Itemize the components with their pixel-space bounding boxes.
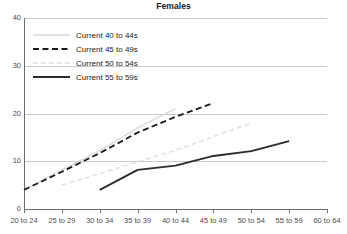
legend-label: Current 40 to 44s bbox=[76, 31, 138, 40]
legend-item-3[interactable]: Current 55 to 59s bbox=[33, 70, 138, 84]
legend-swatch-icon bbox=[33, 72, 70, 82]
x-tick-label: 60 to 64 bbox=[313, 216, 340, 225]
series-line-3 bbox=[100, 141, 289, 190]
legend-item-0[interactable]: Current 40 to 44s bbox=[33, 28, 138, 42]
x-tick-label: 25 to 29 bbox=[48, 216, 75, 225]
x-tick-label: 30 to 34 bbox=[86, 216, 113, 225]
x-tick-mark bbox=[138, 209, 139, 213]
x-tick-mark bbox=[251, 209, 252, 213]
legend-label: Current 50 to 54s bbox=[76, 59, 138, 68]
legend-item-1[interactable]: Current 45 to 49s bbox=[33, 42, 138, 56]
chart-legend: Current 40 to 44sCurrent 45 to 49sCurren… bbox=[33, 28, 138, 84]
x-tick-mark bbox=[100, 209, 101, 213]
x-tick-mark bbox=[327, 209, 328, 213]
x-tick-label: 20 to 24 bbox=[10, 216, 37, 225]
x-tick-label: 50 to 54 bbox=[238, 216, 265, 225]
legend-swatch-icon bbox=[33, 44, 70, 54]
x-tick-label: 45 to 49 bbox=[200, 216, 227, 225]
x-tick-mark bbox=[24, 209, 25, 213]
legend-item-2[interactable]: Current 50 to 54s bbox=[33, 56, 138, 70]
x-tick-mark bbox=[213, 209, 214, 213]
x-tick-label: 40 to 44 bbox=[162, 216, 189, 225]
legend-label: Current 45 to 49s bbox=[76, 45, 138, 54]
x-tick-mark bbox=[289, 209, 290, 213]
x-tick-mark bbox=[176, 209, 177, 213]
legend-label: Current 55 to 59s bbox=[76, 73, 138, 82]
series-line-0 bbox=[24, 109, 176, 190]
x-tick-label: 55 to 59 bbox=[276, 216, 303, 225]
x-tick-mark bbox=[62, 209, 63, 213]
x-tick-label: 35 to 39 bbox=[124, 216, 151, 225]
chart-container: Females 010203040 Current 40 to 44sCurre… bbox=[0, 0, 347, 234]
legend-swatch-icon bbox=[33, 58, 70, 68]
legend-swatch-icon bbox=[33, 30, 70, 40]
